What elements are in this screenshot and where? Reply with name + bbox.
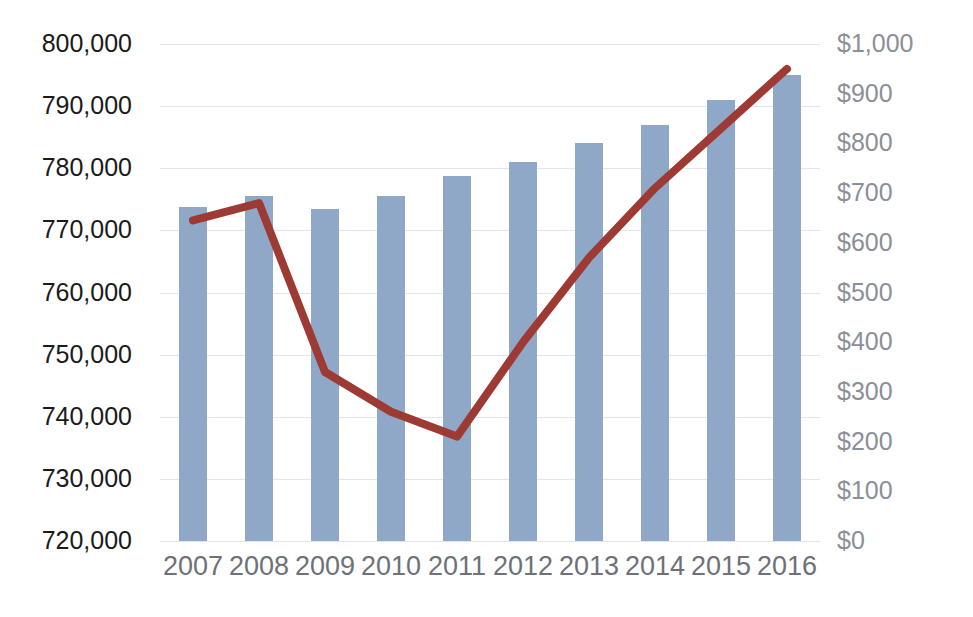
left-axis-tick: 760,000	[42, 280, 132, 305]
x-axis-tick: 2013	[556, 549, 622, 583]
line-series	[160, 30, 820, 541]
chart-container: 800,000790,000780,000770,000760,000750,0…	[0, 0, 973, 617]
right-axis-tick: $500	[837, 280, 893, 305]
gridline	[160, 541, 820, 542]
right-axis-tick: $0	[837, 528, 865, 553]
x-axis-tick: 2014	[622, 549, 688, 583]
x-axis: 2007200820092010201120122013201420152016	[160, 549, 820, 589]
line-path	[193, 69, 787, 437]
x-axis-tick: 2011	[424, 549, 490, 583]
x-axis-tick: 2007	[160, 549, 226, 583]
x-axis-tick: 2016	[754, 549, 820, 583]
plot-area	[160, 30, 820, 541]
right-axis-tick: $200	[837, 429, 893, 454]
x-axis-tick: 2012	[490, 549, 556, 583]
left-axis-tick: 740,000	[42, 404, 132, 429]
right-axis-tick: $900	[837, 81, 893, 106]
left-y-axis: 800,000790,000780,000770,000760,000750,0…	[0, 0, 150, 617]
right-axis-tick: $400	[837, 329, 893, 354]
right-axis-tick: $300	[837, 379, 893, 404]
right-axis-tick: $700	[837, 180, 893, 205]
left-axis-tick: 780,000	[42, 155, 132, 180]
left-axis-tick: 720,000	[42, 528, 132, 553]
left-axis-tick: 800,000	[42, 31, 132, 56]
x-axis-tick: 2010	[358, 549, 424, 583]
right-axis-tick: $600	[837, 230, 893, 255]
left-axis-tick: 750,000	[42, 342, 132, 367]
x-axis-tick: 2009	[292, 549, 358, 583]
left-axis-tick: 770,000	[42, 217, 132, 242]
x-axis-tick: 2015	[688, 549, 754, 583]
left-axis-tick: 790,000	[42, 93, 132, 118]
right-y-axis: $1,000$900$800$700$600$500$400$300$200$1…	[823, 0, 973, 617]
x-axis-tick: 2008	[226, 549, 292, 583]
right-axis-tick: $100	[837, 478, 893, 503]
left-axis-tick: 730,000	[42, 466, 132, 491]
right-axis-tick: $1,000	[837, 31, 913, 56]
right-axis-tick: $800	[837, 130, 893, 155]
